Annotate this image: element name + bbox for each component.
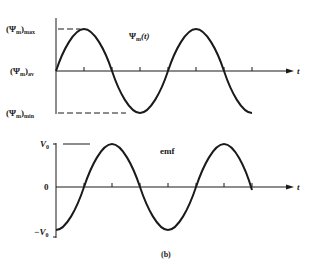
top-t-label: t bbox=[297, 66, 300, 76]
top-plot: (Ψm)max (Ψm)av (Ψm)min Ψm(t) t bbox=[6, 18, 300, 119]
figure-caption: (b) bbox=[161, 250, 171, 259]
neg-v0-label: −V0 bbox=[34, 227, 48, 238]
psi-max-label: (Ψm)max bbox=[6, 24, 35, 35]
psi-min-label: (Ψm)min bbox=[6, 108, 35, 119]
v0-label: V0 bbox=[40, 139, 49, 150]
psi-curve-label: Ψm(t) bbox=[129, 31, 150, 42]
top-x-axis-arrow-icon bbox=[286, 69, 294, 74]
figure-canvas: (Ψm)max (Ψm)av (Ψm)min Ψm(t) t bbox=[0, 0, 316, 265]
zero-label: 0 bbox=[44, 182, 49, 192]
emf-curve-label: emf bbox=[160, 146, 175, 156]
bottom-x-ticks bbox=[84, 183, 252, 187]
bottom-x-axis-arrow-icon bbox=[286, 185, 294, 190]
bottom-t-label: t bbox=[297, 182, 300, 192]
psi-av-label: (Ψm)av bbox=[10, 66, 34, 77]
bottom-plot: V0 0 −V0 emf t bbox=[34, 139, 300, 238]
